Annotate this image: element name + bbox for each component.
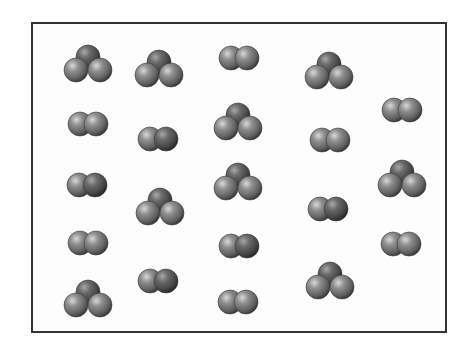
- diatomic-molecule: [67, 173, 107, 197]
- triatomic-molecule: [214, 103, 262, 140]
- atom: [326, 128, 350, 152]
- triatomic-molecule: [214, 163, 262, 200]
- triatomic-molecule: [305, 52, 353, 89]
- outer-atom: [159, 63, 183, 87]
- atom: [84, 112, 108, 136]
- outer-atom: [160, 201, 184, 225]
- diatomic-molecule: [138, 269, 178, 293]
- outer-atom: [238, 116, 262, 140]
- diatomic-molecule: [218, 290, 258, 314]
- atom: [398, 98, 422, 122]
- atom: [84, 231, 108, 255]
- diatomic-molecule: [381, 232, 421, 256]
- atom: [235, 234, 259, 258]
- diatomic-molecule: [138, 127, 178, 151]
- diatomic-molecule: [382, 98, 422, 122]
- outer-atom: [378, 173, 402, 197]
- outer-atom: [64, 58, 88, 82]
- atom: [83, 173, 107, 197]
- diatomic-molecule: [219, 46, 259, 70]
- triatomic-molecule: [378, 160, 426, 197]
- outer-atom: [214, 116, 238, 140]
- atom: [235, 46, 259, 70]
- atom: [154, 127, 178, 151]
- outer-atom: [135, 63, 159, 87]
- diatomic-molecule: [68, 112, 108, 136]
- molecules-layer: [0, 0, 472, 355]
- atom: [324, 197, 348, 221]
- outer-atom: [329, 65, 353, 89]
- diatomic-molecule: [219, 234, 259, 258]
- outer-atom: [88, 293, 112, 317]
- triatomic-molecule: [64, 45, 112, 82]
- outer-atom: [214, 176, 238, 200]
- triatomic-molecule: [306, 262, 354, 299]
- atom: [397, 232, 421, 256]
- outer-atom: [330, 275, 354, 299]
- atom: [234, 290, 258, 314]
- outer-atom: [88, 58, 112, 82]
- outer-atom: [238, 176, 262, 200]
- outer-atom: [402, 173, 426, 197]
- outer-atom: [305, 65, 329, 89]
- diatomic-molecule: [310, 128, 350, 152]
- outer-atom: [64, 293, 88, 317]
- triatomic-molecule: [64, 280, 112, 317]
- outer-atom: [306, 275, 330, 299]
- diatomic-molecule: [68, 231, 108, 255]
- triatomic-molecule: [136, 188, 184, 225]
- molecule-diagram: [0, 0, 472, 355]
- triatomic-molecule: [135, 50, 183, 87]
- outer-atom: [136, 201, 160, 225]
- atom: [154, 269, 178, 293]
- diatomic-molecule: [308, 197, 348, 221]
